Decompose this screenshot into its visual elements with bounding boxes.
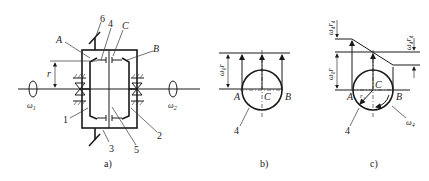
panel-b-velocity: ω₀r A C B 4 b)	[217, 50, 291, 170]
label-4: 4	[234, 125, 239, 136]
label-r4: r₄	[360, 92, 366, 100]
label-omega1: ω1	[27, 101, 36, 111]
label-omega2: ω2	[168, 101, 177, 111]
caption-a: a)	[104, 158, 112, 170]
label-r: r	[47, 68, 51, 79]
label-C: C	[122, 20, 129, 31]
label-C: C	[375, 79, 382, 90]
label-2: 2	[157, 130, 162, 141]
label-4: 4	[108, 18, 113, 29]
label-4: 4	[345, 125, 350, 136]
label-B: B	[396, 91, 402, 102]
label-omega4r4-top: ω₄r₄	[326, 20, 335, 35]
label-A: A	[346, 91, 354, 102]
label-6: 6	[100, 13, 105, 24]
caption-c: c)	[370, 158, 378, 170]
label-B: B	[153, 43, 159, 54]
differential-gear-diagram: r A B C 4 6 1 2 3 5 ω1 ω2 a) ω₀r	[0, 0, 429, 181]
label-B: B	[285, 91, 291, 102]
label-3: 3	[109, 143, 114, 154]
label-omega0r: ω₀r	[326, 68, 335, 80]
label-omega4r4-right: ω₄r₄	[404, 35, 413, 50]
label-5: 5	[134, 144, 139, 155]
label-omega4: ω4	[406, 118, 415, 128]
label-omega0r: ω₀r	[217, 64, 226, 76]
label-1: 1	[63, 114, 68, 125]
label-C: C	[264, 91, 271, 102]
caption-b: b)	[260, 158, 268, 170]
label-A: A	[233, 91, 241, 102]
panel-c-velocity: ω₀r ω₄r₄ ω₄r₄ r₄ A C B 4 ω4 c)	[326, 20, 420, 170]
label-A: A	[55, 34, 63, 45]
panel-a-differential: r A B C 4 6 1 2 3 5 ω1 ω2 a)	[18, 13, 200, 170]
